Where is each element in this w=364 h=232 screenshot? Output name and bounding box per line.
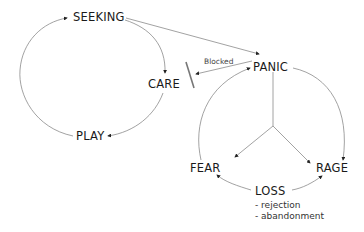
loss-item-rejection: - rejection (255, 201, 300, 210)
edge-fear-to-panic (199, 68, 250, 160)
node-play: PLAY (76, 131, 104, 143)
blocker-bar (186, 62, 194, 88)
node-loss: LOSS (255, 186, 285, 198)
edge-loss-to-fear (217, 175, 251, 190)
loss-item-abandonment: - abandonment (255, 212, 324, 221)
node-panic: PANIC (253, 62, 288, 74)
edge-care-to-play (108, 93, 163, 136)
fork-to-fear (235, 126, 273, 157)
edge-seeking-to-panic (126, 18, 259, 54)
edge-label-blocked: Blocked (204, 58, 233, 66)
node-care: CARE (148, 79, 180, 91)
edge-panic-to-rage (293, 68, 344, 160)
node-fear: FEAR (190, 163, 221, 175)
diagram-canvas (0, 0, 364, 232)
edge-loss-to-rage (292, 176, 322, 190)
fork-to-rage (273, 126, 310, 163)
node-seeking: SEEKING (73, 12, 125, 24)
edge-play-to-seeking (20, 18, 73, 136)
node-rage: RAGE (316, 163, 348, 175)
edge-seeking-to-care (125, 20, 165, 73)
